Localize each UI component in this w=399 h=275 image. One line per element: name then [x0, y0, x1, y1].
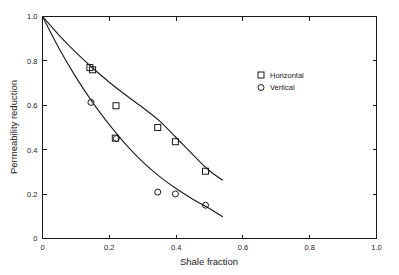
axes-group	[43, 17, 377, 239]
legend-marker-horizontal	[258, 72, 264, 78]
data-point-horizontal-4	[155, 125, 161, 131]
y-axis-title: Permeability reduction	[8, 80, 19, 174]
y-tick-label-4: 0.8	[27, 57, 37, 66]
fit-curve-horizontal	[43, 17, 223, 181]
data-point-vertical-2	[155, 189, 161, 195]
x-tick-label-4: 0.8	[304, 243, 314, 252]
data-point-vertical-3	[172, 191, 178, 197]
legend-label-vertical: Vertical	[270, 83, 295, 92]
chart-figure: 00.20.40.60.81.0 00.20.40.60.81.0 Horizo…	[0, 0, 399, 275]
x-tick-label-2: 0.4	[171, 243, 181, 252]
x-tick-label-3: 0.6	[238, 243, 248, 252]
legend-label-horizontal: Horizontal	[270, 71, 304, 80]
y-tick-label-5: 1.0	[27, 12, 37, 21]
x-tick-label-5: 1.0	[371, 243, 381, 252]
y-tick-labels: 00.20.40.60.81.0	[27, 12, 37, 243]
tick-marks-group	[43, 17, 377, 239]
fit-curves-group	[43, 17, 223, 217]
x-tick-label-0: 0	[40, 243, 44, 252]
data-point-horizontal-2	[113, 103, 119, 109]
scatter-plot: 00.20.40.60.81.0 00.20.40.60.81.0 Horizo…	[0, 0, 399, 275]
axes-frame	[43, 17, 377, 239]
y-tick-label-2: 0.4	[27, 146, 37, 155]
y-tick-label-1: 0.2	[27, 190, 37, 199]
y-tick-label-3: 0.6	[27, 101, 37, 110]
x-tick-label-1: 0.2	[104, 243, 114, 252]
x-tick-labels: 00.20.40.60.81.0	[40, 243, 381, 252]
x-axis-title: Shale fraction	[180, 256, 238, 267]
legend: HorizontalVertical	[258, 71, 304, 93]
y-tick-label-0: 0	[33, 234, 37, 243]
legend-marker-vertical	[258, 85, 264, 91]
data-markers-group	[87, 65, 209, 209]
